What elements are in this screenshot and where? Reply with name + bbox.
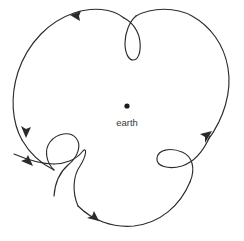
arrowhead-left-upper-icon bbox=[21, 126, 31, 138]
central-body-group: earth bbox=[116, 103, 138, 128]
earth-label: earth bbox=[116, 117, 138, 128]
orbit-loop-top bbox=[124, 16, 140, 60]
orbit-diagram-figure: earth bbox=[0, 0, 244, 241]
orbit-loop-right bbox=[157, 136, 210, 182]
orbit-diagram-canvas: earth bbox=[0, 0, 244, 241]
arrowhead-bottom-icon bbox=[87, 211, 99, 221]
earth-dot-icon bbox=[124, 103, 129, 108]
orbit-arc-right-ascending bbox=[136, 9, 229, 140]
orbit-arc-upper-left bbox=[13, 9, 124, 140]
orbit-arrowheads-group bbox=[21, 11, 212, 221]
orbit-arc-left-descending bbox=[22, 140, 54, 170]
